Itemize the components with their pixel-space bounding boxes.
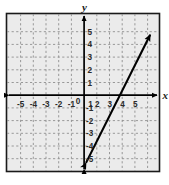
x-tick-label: -1 xyxy=(68,100,76,109)
x-axis-label: x xyxy=(162,89,169,101)
plot-background xyxy=(7,14,160,172)
y-axis-label: y xyxy=(80,1,87,13)
graph-canvas: -5 -4 -3 -2 -1 0 1 2 3 4 5 5 4 3 2 1 -1 … xyxy=(0,0,169,185)
x-tick-label: -2 xyxy=(55,100,63,109)
y-tick-labels-positive: 5 4 3 2 1 xyxy=(88,28,93,88)
y-tick-label: -5 xyxy=(86,155,94,164)
x-tick-label: -3 xyxy=(42,100,50,109)
y-tick-label: -3 xyxy=(86,129,94,138)
y-tick-label: 3 xyxy=(88,53,93,62)
x-tick-label: -4 xyxy=(30,100,38,109)
x-tick-label: 2 xyxy=(95,100,100,109)
y-tick-label: 5 xyxy=(88,28,93,37)
y-tick-label: -1 xyxy=(86,104,94,113)
x-tick-label: 4 xyxy=(120,100,125,109)
y-tick-label: 1 xyxy=(88,79,93,88)
x-tick-label: 3 xyxy=(108,100,113,109)
origin-label: 0 xyxy=(76,97,81,106)
x-tick-label: -5 xyxy=(17,100,25,109)
y-tick-labels-negative: -1 -2 -3 -4 -5 xyxy=(86,104,94,164)
coordinate-graph: -5 -4 -3 -2 -1 0 1 2 3 4 5 5 4 3 2 1 -1 … xyxy=(0,0,169,185)
y-tick-label: 2 xyxy=(88,66,93,75)
y-tick-label: -2 xyxy=(86,117,94,126)
y-tick-label: 4 xyxy=(88,40,93,49)
y-tick-label: -4 xyxy=(86,142,94,151)
x-tick-label: 5 xyxy=(133,100,138,109)
